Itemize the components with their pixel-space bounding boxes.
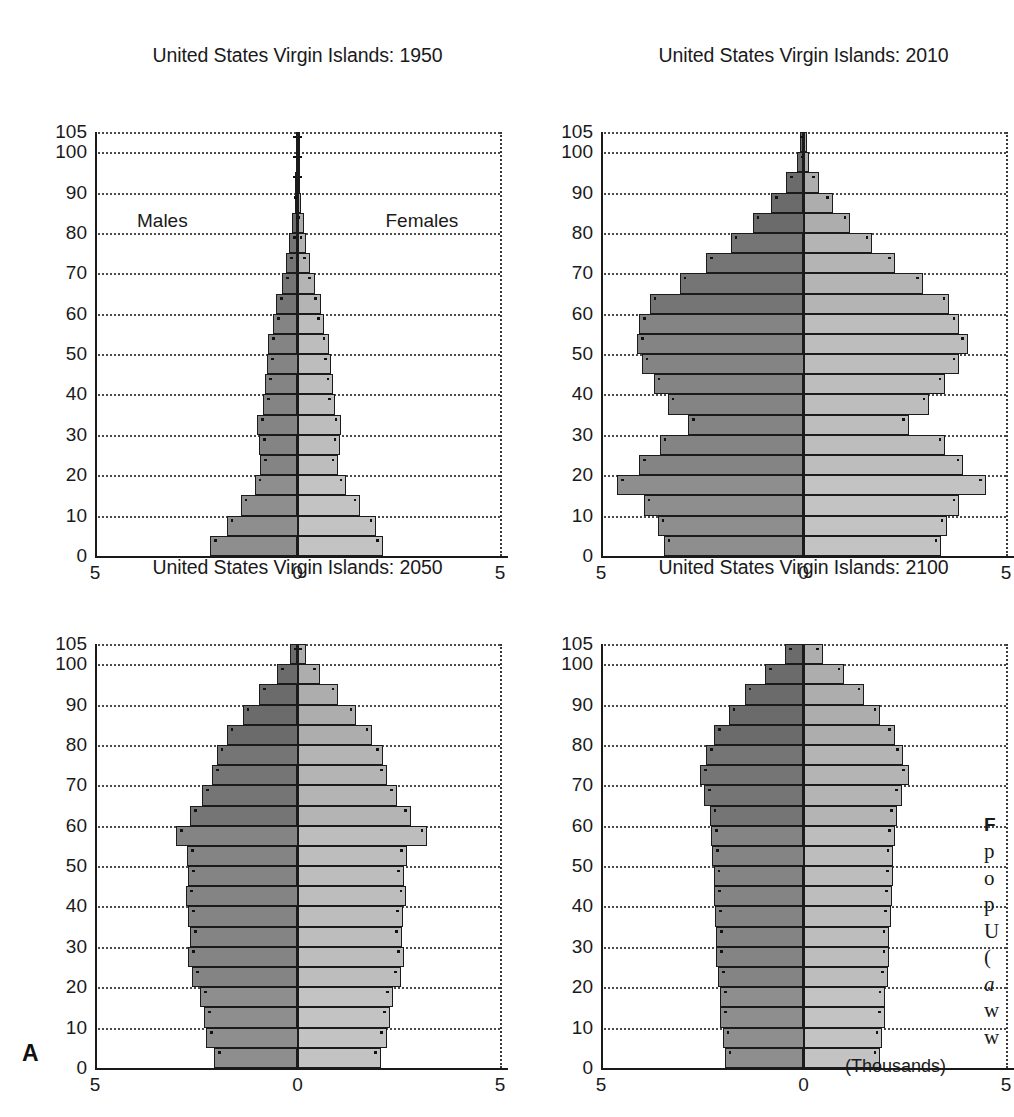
register-dot: [714, 809, 717, 812]
bar-male: [639, 455, 803, 475]
register-dot: [662, 519, 665, 522]
age-band-row: [506, 253, 1014, 273]
age-band-row: [506, 886, 1014, 906]
bar-female: [298, 664, 320, 684]
panel-title: United States Virgin Islands: 2100: [601, 556, 1006, 579]
bar-female: [298, 785, 397, 805]
bar-female: [804, 536, 942, 556]
register-dot: [890, 809, 893, 812]
register-dot: [194, 930, 197, 933]
age-band-row: [0, 705, 508, 725]
register-dot: [300, 156, 303, 159]
register-dot: [664, 438, 667, 441]
age-band-row: [0, 354, 508, 374]
age-band-row: [0, 374, 508, 394]
bar-female: [298, 253, 310, 273]
caption-line: p: [984, 838, 1014, 865]
panel-title: United States Virgin Islands: 2010: [601, 44, 1006, 67]
bar-male: [745, 684, 804, 704]
age-band-row: [506, 765, 1014, 785]
register-dot: [263, 688, 266, 691]
age-band-row: [0, 1028, 508, 1048]
age-band-row: [506, 725, 1014, 745]
bar-male: [716, 927, 803, 947]
age-band-row: [0, 455, 508, 475]
bar-male: [642, 354, 804, 374]
register-dot: [884, 910, 887, 913]
register-dot: [672, 398, 675, 401]
age-band-row: [0, 846, 508, 866]
bar-female: [298, 886, 407, 906]
register-dot: [386, 991, 389, 994]
register-dot: [396, 910, 399, 913]
register-dot: [395, 930, 398, 933]
bar-female: [298, 435, 341, 455]
age-band-row: [506, 745, 1014, 765]
register-dot: [658, 378, 661, 381]
bar-male: [700, 765, 803, 785]
bar-female: [298, 516, 377, 536]
register-dot: [313, 668, 316, 671]
register-dot: [334, 438, 337, 441]
age-band-row: [506, 644, 1014, 664]
bar-male: [654, 374, 804, 394]
register-dot: [724, 1011, 727, 1014]
register-dot: [826, 196, 829, 199]
age-band-row: [506, 273, 1014, 293]
register-dot: [643, 459, 646, 462]
bar-female: [804, 725, 895, 745]
register-dot: [300, 236, 303, 239]
bar-female: [298, 947, 404, 967]
bar-female: [804, 354, 960, 374]
bar-male: [660, 435, 804, 455]
register-dot: [885, 890, 888, 893]
x-axis: [95, 1068, 508, 1070]
bar-male: [710, 806, 804, 826]
register-dot: [394, 971, 397, 974]
age-band-row: [0, 927, 508, 947]
register-dot: [790, 176, 793, 179]
bar-male: [210, 536, 297, 556]
age-band-row: [506, 826, 1014, 846]
bar-male: [785, 644, 803, 664]
register-dot: [190, 890, 193, 893]
register-dot: [935, 539, 938, 542]
register-dot: [858, 688, 861, 691]
age-band-row: [506, 684, 1014, 704]
age-band-row: [0, 132, 508, 152]
bar-female: [804, 516, 948, 536]
register-dot: [902, 769, 905, 772]
age-band-row: [506, 213, 1014, 233]
bar-male: [650, 294, 804, 314]
age-band-row: [506, 334, 1014, 354]
caption-line: U: [984, 918, 1014, 945]
age-band-row: [506, 394, 1014, 414]
bar-male: [257, 415, 298, 435]
register-dot: [216, 769, 219, 772]
bar-male: [227, 516, 298, 536]
register-dot: [641, 337, 644, 340]
centre-axis: [803, 132, 805, 556]
centre-axis: [297, 132, 299, 556]
register-dot: [308, 277, 311, 280]
bar-male: [188, 947, 297, 967]
register-dot: [206, 789, 209, 792]
register-dot: [715, 829, 718, 832]
panel-title: United States Virgin Islands: 2050: [95, 556, 500, 579]
register-dot: [718, 890, 721, 893]
bar-female: [298, 806, 411, 826]
bar-female: [804, 1007, 885, 1027]
age-band-row: [0, 233, 508, 253]
age-band-row: [506, 664, 1014, 684]
register-dot: [196, 971, 199, 974]
register-dot: [883, 950, 886, 953]
bar-female: [298, 374, 334, 394]
register-dot: [380, 769, 383, 772]
age-band-row: [0, 394, 508, 414]
register-dot: [724, 991, 727, 994]
register-dot: [668, 539, 671, 542]
register-dot: [214, 539, 217, 542]
bar-female: [804, 374, 946, 394]
bar-female: [298, 354, 331, 374]
register-dot: [380, 1031, 383, 1034]
